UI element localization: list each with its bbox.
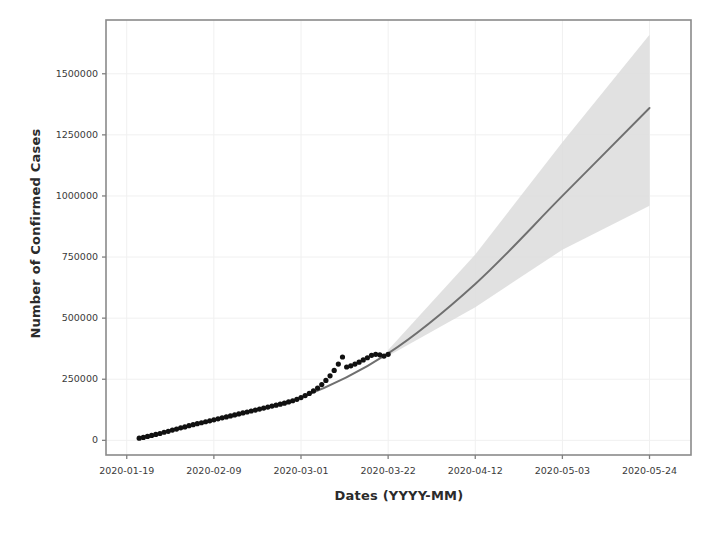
x-axis-title: Dates (YYYY-MM) — [299, 488, 499, 503]
plot-background — [106, 20, 691, 455]
x-tick-label: 2020-05-03 — [517, 465, 607, 476]
x-tick-label: 2020-03-01 — [256, 465, 346, 476]
chart-figure: Number of Confirmed Cases Dates (YYYY-MM… — [0, 0, 719, 536]
x-tick-label: 2020-03-22 — [343, 465, 433, 476]
x-tick-label: 2020-04-12 — [430, 465, 520, 476]
plot-canvas — [0, 0, 719, 536]
x-tick-label: 2020-05-24 — [605, 465, 695, 476]
y-tick-label: 1000000 — [20, 190, 98, 201]
y-tick-label: 1500000 — [20, 68, 98, 79]
y-tick-label: 1250000 — [20, 129, 98, 140]
y-tick-label: 250000 — [20, 373, 98, 384]
y-tick-label: 500000 — [20, 312, 98, 323]
y-tick-label: 750000 — [20, 251, 98, 262]
y-tick-label: 0 — [20, 434, 98, 445]
x-tick-label: 2020-02-09 — [169, 465, 259, 476]
y-axis-title: Number of Confirmed Cases — [28, 149, 43, 339]
x-tick-label: 2020-01-19 — [82, 465, 172, 476]
